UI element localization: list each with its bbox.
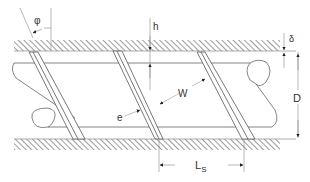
e-dimension (125, 110, 140, 116)
Ls-label: LS (195, 159, 206, 174)
extruder-diagram: φ h δ D W e LS (0, 0, 310, 182)
h-label: h (153, 21, 159, 32)
flight-2 (113, 51, 163, 139)
D-label: D (293, 92, 301, 104)
phi-label: φ (34, 15, 41, 26)
delta-label: δ (289, 34, 294, 44)
flight-1 (29, 52, 85, 139)
flight-3 (197, 52, 255, 139)
e-label: e (117, 112, 123, 123)
barrel-wall-bottom (14, 139, 296, 150)
W-label: W (178, 88, 188, 99)
barrel-wall-top (14, 40, 296, 51)
